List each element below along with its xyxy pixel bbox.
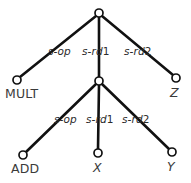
edge-label-stem: s-rd <box>122 113 143 125</box>
edge-label-root-s-rd1: s-rd1 <box>82 46 109 57</box>
leaf-label-add: ADD <box>11 163 39 176</box>
node-z <box>172 74 180 82</box>
edge-label-stem: s-rd <box>124 45 145 57</box>
edge-label-index: 1 <box>103 45 110 57</box>
node-add <box>19 151 27 159</box>
edge-label-inner-s-op: s-op <box>54 114 77 125</box>
node-y <box>168 148 176 156</box>
node-root <box>95 9 103 17</box>
edge-label-inner-s-rd2: s-rd2 <box>122 114 149 125</box>
leaf-label-x: X <box>93 162 102 175</box>
leaf-label-mult: MULT <box>5 88 38 101</box>
leaf-label-y: Y <box>167 161 175 174</box>
edge-label-stem: s-rd <box>82 45 103 57</box>
edge-label-root-s-rd2: s-rd2 <box>124 46 151 57</box>
edge-label-stem: s-op <box>48 45 71 57</box>
node-inner <box>95 77 103 85</box>
edge-label-stem: s-op <box>54 113 77 125</box>
tree-diagram: s-op s-rd1 s-rd2 s-op s-rd1 s-rd2 MULT Z… <box>0 0 191 183</box>
edge-label-index: 2 <box>143 113 150 125</box>
node-x <box>94 149 102 157</box>
edge-label-index: 2 <box>145 45 152 57</box>
edge-label-stem: s-rd <box>86 113 107 125</box>
edge-label-inner-s-rd1: s-rd1 <box>86 114 113 125</box>
leaf-label-z: Z <box>170 87 179 100</box>
edge-label-root-s-op: s-op <box>48 46 71 57</box>
node-mult <box>13 76 21 84</box>
edge-label-index: 1 <box>107 113 114 125</box>
